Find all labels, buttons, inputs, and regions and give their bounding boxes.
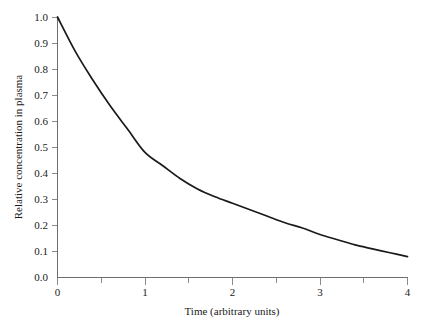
y-axis: 1.0 0.9 0.8 0.7 0.6 0.5 0.4 0.3 0.2 0.1 … — [12, 11, 58, 283]
x-tick-label-0: 0 — [55, 286, 61, 298]
y-tick-label-0.2: 0.2 — [34, 219, 48, 231]
x-axis: 0 1 2 3 4 Time (arbitrary units) — [55, 278, 411, 319]
x-axis-major-ticks — [58, 278, 408, 285]
chart-figure: 1.0 0.9 0.8 0.7 0.6 0.5 0.4 0.3 0.2 0.1 … — [0, 0, 421, 325]
y-tick-label-0.4: 0.4 — [34, 167, 48, 179]
y-tick-label-0.6: 0.6 — [34, 115, 48, 127]
y-axis-ticks — [52, 18, 57, 252]
chart-plot-area: 1.0 0.9 0.8 0.7 0.6 0.5 0.4 0.3 0.2 0.1 … — [0, 0, 421, 325]
y-tick-label-0.5: 0.5 — [34, 141, 48, 153]
y-tick-label-0.0: 0.0 — [34, 271, 48, 283]
y-tick-label-0.9: 0.9 — [34, 37, 48, 49]
x-tick-label-4: 4 — [405, 286, 411, 298]
x-axis-title: Time (arbitrary units) — [185, 305, 280, 318]
x-tick-label-2: 2 — [230, 286, 236, 298]
decay-curve — [58, 17, 408, 257]
x-tick-label-3: 3 — [317, 286, 323, 298]
y-tick-label-0.3: 0.3 — [34, 193, 48, 205]
y-tick-label-0.1: 0.1 — [34, 245, 48, 257]
y-tick-label-1.0: 1.0 — [34, 11, 48, 23]
y-tick-label-0.7: 0.7 — [34, 89, 48, 101]
x-axis-tick-labels: 0 1 2 3 4 — [55, 286, 411, 298]
x-tick-label-1: 1 — [142, 286, 148, 298]
y-axis-title: Relative concentration in plasma — [12, 75, 24, 220]
y-axis-tick-labels: 1.0 0.9 0.8 0.7 0.6 0.5 0.4 0.3 0.2 0.1 … — [34, 11, 48, 283]
y-tick-label-0.8: 0.8 — [34, 63, 48, 75]
